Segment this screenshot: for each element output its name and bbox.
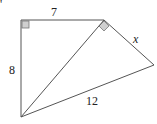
label-left: 8: [9, 63, 15, 77]
fragment-mark: ': [0, 0, 2, 11]
label-x: x: [132, 32, 139, 46]
edge-right-x: [104, 20, 154, 65]
label-top: 7: [51, 5, 57, 19]
edge-bottom-12: [21, 65, 154, 117]
geometry-figure: ' 7 8 x 12: [0, 0, 157, 124]
right-angle-marker-left: [22, 21, 29, 28]
label-bottom: 12: [86, 94, 98, 108]
